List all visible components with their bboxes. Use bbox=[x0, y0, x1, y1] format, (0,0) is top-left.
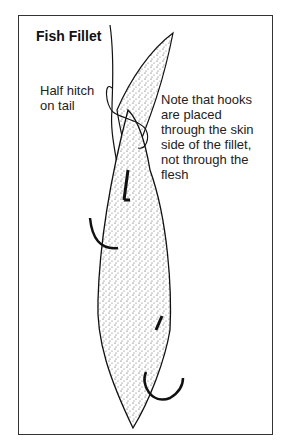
fillet-body bbox=[98, 110, 171, 428]
fish-fillet-illustration bbox=[0, 0, 287, 447]
fishing-line bbox=[110, 25, 118, 170]
